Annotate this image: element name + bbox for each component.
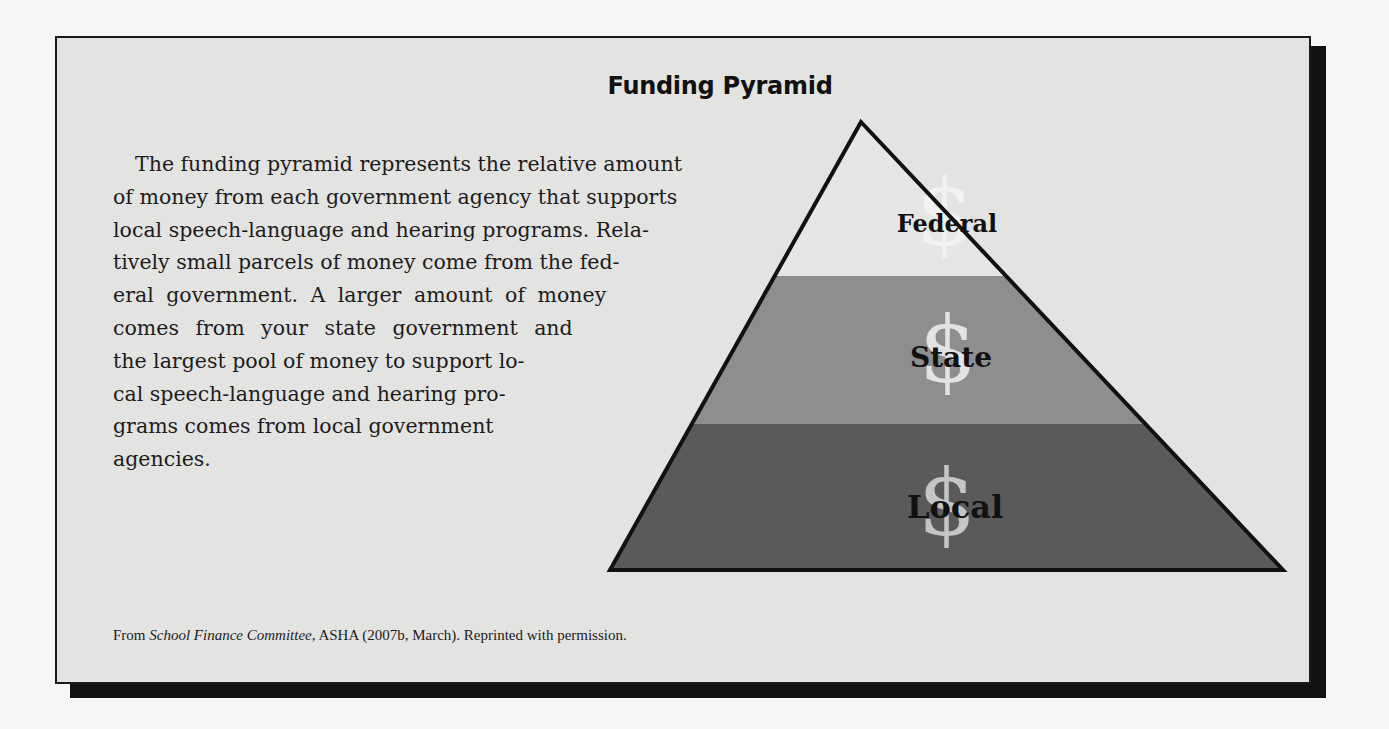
figure-caption: From School Finance Committee, ASHA (200… (113, 627, 627, 644)
caption-suffix: ASHA (2007b, March). Reprinted with perm… (315, 627, 626, 643)
tier-label-state: State (910, 341, 992, 374)
figure-page: Funding Pyramid The funding pyramid repr… (0, 0, 1389, 729)
caption-prefix: From (113, 627, 149, 643)
funding-pyramid: $ Federal $ State $ Local (0, 0, 1389, 729)
tier-label-local: Local (907, 488, 1003, 526)
caption-source-title: School Finance Committee, (149, 627, 315, 643)
